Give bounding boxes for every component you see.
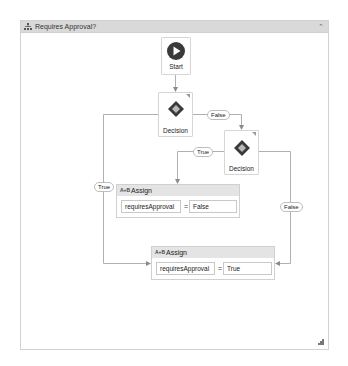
edge-label-d1-false[interactable]: False — [207, 110, 230, 120]
decision-node-1[interactable]: Decision — [158, 92, 193, 137]
assign-value-field-1[interactable]: False — [189, 200, 237, 213]
assign-value-field-2[interactable]: True — [223, 262, 272, 275]
edge-label-d2-true[interactable]: True — [193, 147, 213, 157]
assign-icon: A+B — [120, 187, 130, 194]
corner-expand-icon — [186, 94, 190, 98]
decision-node-2[interactable]: Decision — [224, 130, 259, 175]
assign-activity-2[interactable]: A+B Assign requiresApproval = True — [151, 246, 275, 280]
decision-label-1: Decision — [159, 127, 192, 134]
assign-header-1: A+B Assign — [117, 185, 239, 196]
assign-title-2: Assign — [166, 248, 187, 257]
play-icon — [166, 41, 186, 61]
assign-activity-1[interactable]: A+B Assign requiresApproval = False — [116, 184, 240, 218]
edge-label-d1-true[interactable]: True — [94, 182, 114, 192]
diamond-icon — [167, 100, 185, 118]
edge-label-d2-false[interactable]: False — [280, 202, 303, 212]
assign-operator-1: = — [184, 201, 188, 212]
diamond-icon — [233, 139, 251, 157]
assign-icon: A+B — [155, 249, 165, 256]
corner-expand-icon — [252, 132, 256, 136]
assign-title-1: Assign — [131, 186, 152, 195]
assign-to-field-2[interactable]: requiresApproval — [156, 262, 215, 275]
assign-header-2: A+B Assign — [152, 247, 274, 258]
assign-operator-2: = — [218, 263, 222, 274]
start-node[interactable]: Start — [161, 37, 191, 75]
assign-to-field-1[interactable]: requiresApproval — [121, 200, 181, 213]
decision-label-2: Decision — [225, 165, 258, 172]
start-label: Start — [162, 63, 190, 70]
